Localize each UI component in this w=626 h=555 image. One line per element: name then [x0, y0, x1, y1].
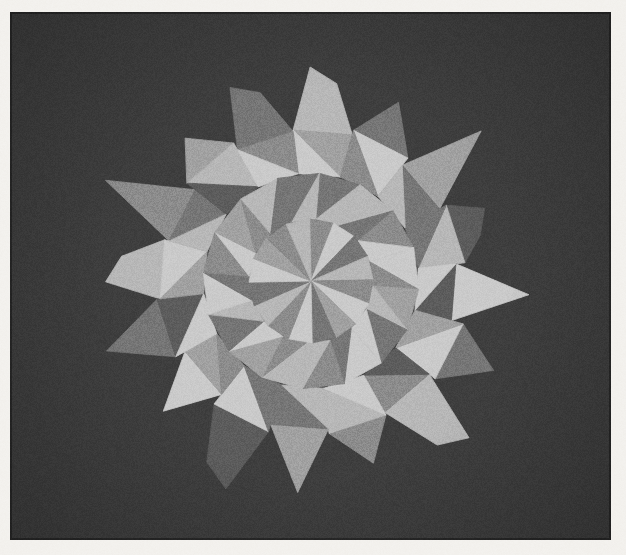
artwork-frame [0, 0, 626, 555]
radial-star-mandala-artwork [0, 0, 626, 555]
